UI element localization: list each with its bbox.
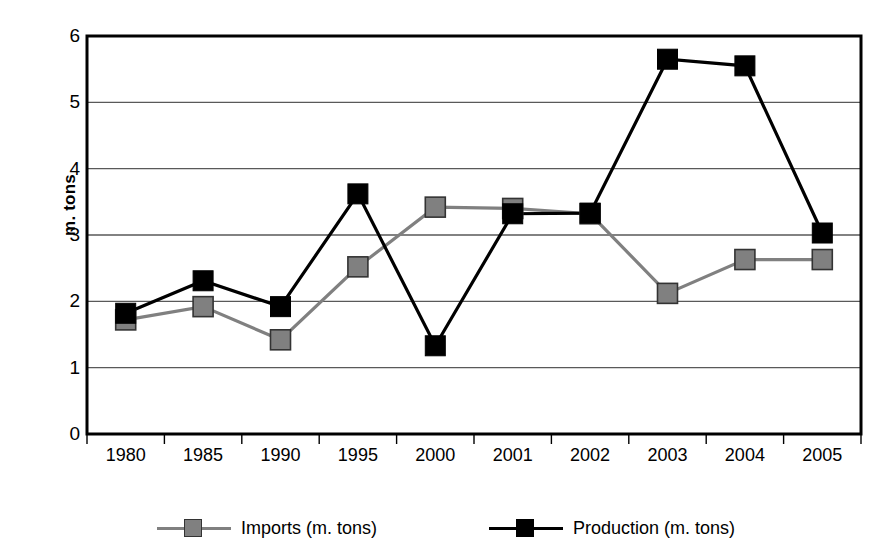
data-point-production (812, 223, 832, 243)
marker-square (735, 250, 755, 270)
data-point-production (580, 203, 600, 223)
x-axis-tick-labels: 1980198519901995200020012002200320042005 (0, 444, 892, 474)
data-point-production (735, 56, 755, 76)
data-point-production (425, 336, 445, 356)
marker-square (271, 330, 291, 350)
marker-square (348, 184, 368, 204)
legend-label-imports: Imports (m. tons) (241, 518, 377, 538)
legend-label-production: Production (m. tons) (573, 518, 735, 538)
plot-area (0, 0, 892, 560)
data-point-imports (348, 257, 368, 277)
marker-square (812, 250, 832, 270)
marker-square (193, 271, 213, 291)
data-point-production (503, 204, 523, 224)
marker-square (271, 297, 291, 317)
marker-square (812, 223, 832, 243)
data-point-imports (271, 330, 291, 350)
marker-square (425, 197, 445, 217)
marker-square (425, 336, 445, 356)
data-point-production (193, 271, 213, 291)
legend-key-imports-icon (157, 518, 231, 538)
data-point-production (658, 49, 678, 69)
marker-square (348, 257, 368, 277)
data-point-imports (735, 250, 755, 270)
marker-square (658, 49, 678, 69)
legend-item-imports[interactable]: Imports (m. tons) (157, 518, 377, 538)
data-point-production (271, 297, 291, 317)
data-point-imports (812, 250, 832, 270)
marker-square (658, 283, 678, 303)
data-point-production (116, 303, 136, 323)
marker-square (193, 297, 213, 317)
data-point-imports (193, 297, 213, 317)
data-point-imports (425, 197, 445, 217)
data-point-imports (658, 283, 678, 303)
marker-square (580, 203, 600, 223)
marker-square (116, 303, 136, 323)
data-point-production (348, 184, 368, 204)
legend-item-production[interactable]: Production (m. tons) (489, 518, 735, 538)
marker-square (503, 204, 523, 224)
legend-key-production-icon (489, 518, 563, 538)
chart-legend: Imports (m. tons) Production (m. tons) (0, 508, 892, 548)
line-chart: m. tons 0123456 198019851990199520002001… (0, 0, 892, 560)
marker-square (735, 56, 755, 76)
x-tick-label: 2005 (777, 444, 867, 466)
